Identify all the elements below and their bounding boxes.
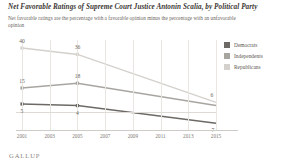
legend-label-democrats: Democrats — [234, 42, 257, 48]
data-label: 4 — [76, 110, 79, 116]
gridline-vertical — [105, 40, 106, 131]
gridline-vertical — [50, 40, 51, 131]
legend-label-independents: Independents — [234, 53, 263, 59]
x-tick-2015: 2015 — [211, 133, 221, 139]
series-line-independents — [22, 83, 216, 105]
legend-item-independents[interactable]: Independents — [224, 50, 263, 61]
zero-baseline — [16, 112, 216, 113]
data-label: 5 — [21, 108, 24, 114]
x-tick-2005: 2005 — [72, 133, 82, 139]
data-label: 40 — [19, 38, 25, 44]
gridline-vertical — [216, 40, 217, 131]
gallup-logo: GALLUP — [9, 152, 40, 159]
data-label: 15 — [19, 78, 25, 84]
x-tick-2013: 2013 — [183, 133, 193, 139]
x-tick-2001: 2001 — [17, 133, 27, 139]
legend-item-republicans[interactable]: Republicans — [224, 61, 263, 72]
legend-swatch-independents — [224, 53, 230, 59]
gridline-vertical — [188, 40, 189, 131]
gridline-vertical — [161, 40, 162, 131]
chart-legend: Democrats Independents Republicans — [224, 39, 263, 72]
chart-subtitle: Net favorable ratings are the percentage… — [8, 15, 236, 29]
x-tick-2011: 2011 — [155, 133, 165, 139]
series-line-republicans — [22, 48, 216, 102]
x-axis-line — [16, 130, 238, 131]
x-tick-2007: 2007 — [100, 133, 110, 139]
data-label: 18 — [75, 73, 81, 79]
legend-swatch-republicans — [224, 64, 230, 70]
series-line-democrats — [22, 104, 216, 123]
chart-title: Net Favorable Ratings of Supreme Court J… — [8, 3, 280, 12]
gridline-vertical — [133, 40, 134, 131]
legend-label-republicans: Republicans — [234, 64, 261, 70]
chart-figure: Net Favorable Ratings of Supreme Court J… — [0, 0, 290, 168]
gridline-vertical — [22, 40, 23, 131]
x-axis-tick-labels: 20012003200520072009201120132015 — [16, 133, 238, 145]
gridline-vertical — [77, 40, 78, 131]
data-label: 6 — [211, 92, 214, 98]
legend-swatch-democrats — [224, 42, 230, 48]
x-tick-2009: 2009 — [128, 133, 138, 139]
chart-series-lines — [22, 40, 216, 128]
data-label: 36 — [75, 44, 81, 50]
legend-item-democrats[interactable]: Democrats — [224, 39, 263, 50]
x-tick-2003: 2003 — [45, 133, 55, 139]
chart-plot-area: 54-7151840366 — [22, 40, 216, 128]
